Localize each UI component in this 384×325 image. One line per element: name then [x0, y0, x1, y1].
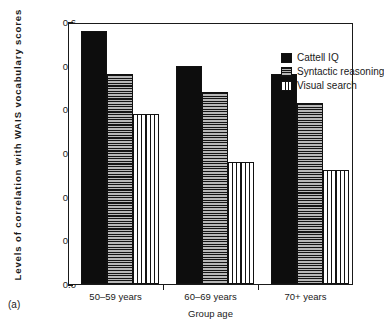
x-axis-title: Group age [68, 308, 353, 319]
y-axis-title: Levels of correlation with WAIS vocabula… [12, 11, 23, 281]
legend-swatch-icon [281, 67, 292, 77]
x-category-label: 70+ years [258, 291, 353, 302]
x-category-label: 50–59 years [68, 291, 163, 302]
plot-area: Cattell IQSyntactic reasoningVisual sear… [68, 23, 353, 285]
legend-swatch-icon [281, 53, 292, 63]
bar [271, 74, 297, 284]
bar [81, 31, 107, 284]
bar [133, 114, 159, 284]
legend-swatch-icon [281, 81, 292, 91]
bar [107, 74, 133, 284]
legend-label: Visual search [297, 80, 357, 92]
legend-item: Syntactic reasoning [281, 65, 384, 78]
legend-item: Visual search [281, 79, 384, 92]
legend-label: Cattell IQ [297, 52, 339, 64]
bar [297, 103, 323, 284]
x-tick-mark [163, 285, 164, 290]
x-category-label: 60–69 years [163, 291, 258, 302]
chart-legend: Cattell IQSyntactic reasoningVisual sear… [281, 51, 384, 93]
bar [228, 162, 254, 284]
x-tick-mark [258, 285, 259, 290]
legend-item: Cattell IQ [281, 51, 384, 64]
panel-label: (a) [8, 299, 20, 310]
legend-label: Syntactic reasoning [297, 66, 384, 78]
bar [323, 170, 349, 284]
bar [202, 92, 228, 284]
bar [176, 66, 202, 284]
